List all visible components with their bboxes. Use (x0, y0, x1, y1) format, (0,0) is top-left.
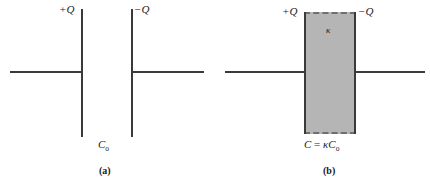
dielectric-constant-symbol: κ (326, 26, 330, 35)
panel-a-positive-plate (81, 9, 83, 137)
panel-b-negative-plate (354, 12, 356, 134)
capacitor-dielectric-figure: +Q −Q Co (a) +Q −Q κ C = κCo (b) (0, 0, 430, 186)
panel-b-formula-rhs: κC (323, 138, 336, 150)
panel-b-capacitance-formula: C = κCo (304, 139, 339, 153)
panel-a-positive-charge-label: +Q (59, 4, 74, 15)
panel-a-right-lead-wire (132, 71, 204, 73)
panel-b-caption: (b) (323, 166, 335, 176)
panel-a-vacuum-capacitor: +Q −Q Co (a) (0, 0, 215, 186)
panel-b-positive-plate (304, 12, 306, 134)
panel-b-formula-subscript: o (336, 144, 340, 153)
panel-a-capacitance-label: Co (98, 139, 109, 153)
panel-b-positive-charge-label: +Q (282, 6, 297, 17)
panel-a-negative-charge-label: −Q (134, 4, 149, 15)
panel-b-formula-operator: = (311, 138, 323, 150)
panel-a-negative-plate (131, 9, 133, 137)
panel-a-caption: (a) (99, 166, 111, 176)
panel-b-dielectric-capacitor: +Q −Q κ C = κCo (b) (215, 0, 430, 186)
panel-b-negative-charge-label: −Q (358, 6, 373, 17)
panel-b-right-lead-wire (355, 71, 425, 73)
panel-a-capacitance-subscript: o (105, 144, 109, 153)
panel-b-left-lead-wire (225, 71, 305, 73)
panel-a-left-lead-wire (10, 71, 82, 73)
